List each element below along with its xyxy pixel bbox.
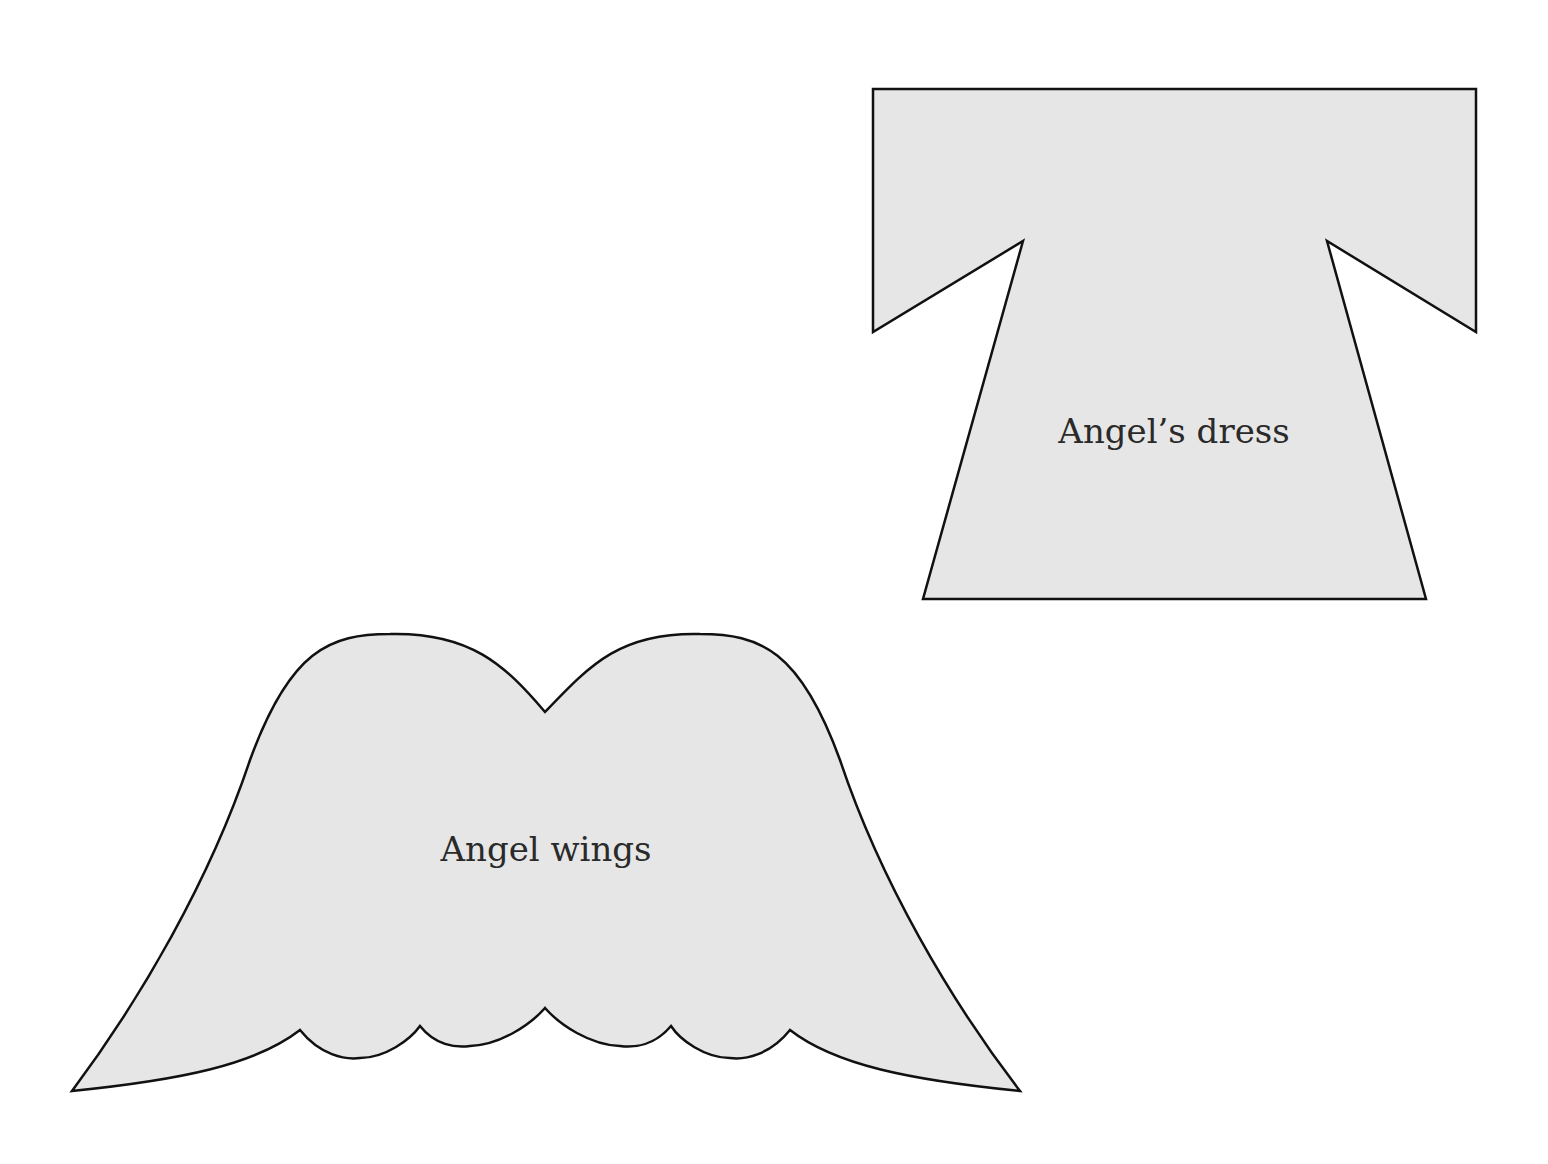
dress-shape — [873, 89, 1476, 599]
pattern-canvas: Angel’s dress Angel wings — [0, 0, 1548, 1164]
angel-wings-template: Angel wings — [72, 634, 1020, 1091]
angel-dress-template: Angel’s dress — [873, 89, 1476, 599]
wings-label: Angel wings — [439, 829, 651, 869]
dress-label: Angel’s dress — [1057, 411, 1289, 451]
